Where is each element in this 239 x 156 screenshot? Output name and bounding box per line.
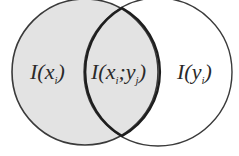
set-x-label: I(xi) bbox=[29, 59, 65, 86]
set-y-label: I(yi) bbox=[176, 59, 212, 86]
venn-diagram: I(xi) I(xi;yj) I(yi) bbox=[0, 0, 239, 156]
